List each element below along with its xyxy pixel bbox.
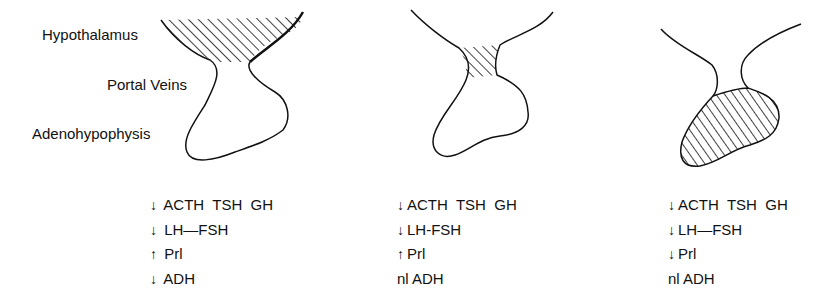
hormone-text: LH—FSH [678, 221, 742, 238]
hormone-row: ↓Prl [668, 242, 788, 267]
change-indicator: ↓ [150, 218, 160, 243]
change-indicator: ↓ [150, 193, 160, 218]
hormone-row: ↓LH-FSH [397, 218, 517, 243]
hormone-row: ↑ Prl [150, 242, 273, 267]
change-indicator: nl [668, 270, 680, 287]
change-indicator: ↓ [668, 193, 678, 218]
hormone-row: nl ADH [397, 267, 517, 292]
hormone-text: ADH [412, 270, 444, 287]
change-indicator: ↑ [397, 242, 407, 267]
panel-1-hormone-list: ↓ ACTH TSH GH ↓ LH—FSH ↑ Prl ↓ ADH [150, 193, 273, 291]
hormone-text: LH-FSH [407, 221, 461, 238]
hormone-text: ACTH TSH GH [163, 196, 273, 213]
label-portal-veins: Portal Veins [107, 76, 187, 93]
stalk-hatched-region [459, 45, 500, 78]
panel-2-diagram [411, 10, 553, 156]
hormone-row: nl ADH [668, 267, 788, 292]
adenohypophysis-hatched-region [681, 88, 779, 166]
change-indicator: ↓ [397, 193, 407, 218]
panel-3-diagram [661, 24, 801, 166]
label-adenohypophysis: Adenohypophysis [32, 125, 150, 142]
hormone-text: ADH [163, 270, 195, 287]
change-indicator: ↓ [668, 242, 678, 267]
panel-2-hormone-list: ↓ACTH TSH GH ↓LH-FSH ↑Prl nl ADH [397, 193, 517, 291]
hormone-text: Prl [407, 245, 425, 262]
hormone-row: ↓ ACTH TSH GH [150, 193, 273, 218]
hormone-row: ↑Prl [397, 242, 517, 267]
hormone-text: Prl [678, 245, 696, 262]
pituitary-outline-2 [411, 10, 553, 156]
hormone-row: ↓ LH—FSH [150, 218, 273, 243]
label-hypothalamus: Hypothalamus [42, 26, 138, 43]
change-indicator: nl [397, 270, 409, 287]
hormone-row: ↓ACTH TSH GH [397, 193, 517, 218]
hormone-row: ↓ACTH TSH GH [668, 193, 788, 218]
hormone-text: ACTH TSH GH [678, 196, 788, 213]
hormone-row: ↓ ADH [150, 267, 273, 292]
change-indicator: ↑ [150, 242, 160, 267]
stalk-outline-right [741, 24, 801, 88]
change-indicator: ↓ [150, 267, 160, 292]
stalk-outline-left [661, 29, 717, 96]
panel-3-hormone-list: ↓ACTH TSH GH ↓LH—FSH ↓Prl nl ADH [668, 193, 788, 291]
hypothalamus-hatched-region [161, 17, 303, 62]
hormone-text: ADH [683, 270, 715, 287]
change-indicator: ↓ [397, 218, 407, 243]
change-indicator: ↓ [668, 218, 678, 243]
hormone-text: LH—FSH [164, 221, 228, 238]
hormone-row: ↓LH—FSH [668, 218, 788, 243]
hormone-text: Prl [164, 245, 182, 262]
hormone-text: ACTH TSH GH [407, 196, 517, 213]
